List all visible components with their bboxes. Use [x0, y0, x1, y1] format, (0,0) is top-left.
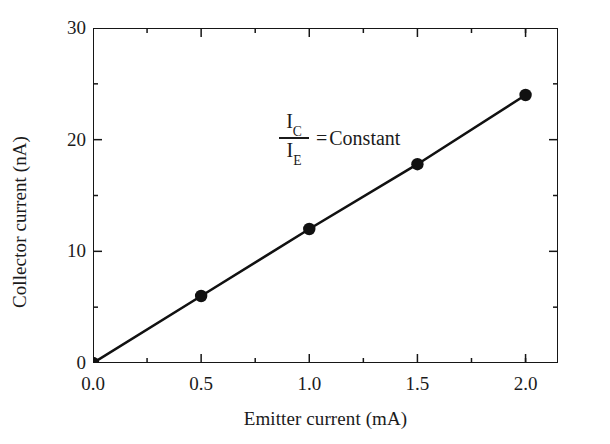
x-axis-title: Emitter current (mA): [93, 408, 558, 430]
plot-svg: [93, 28, 558, 363]
x-tick-label: 0.0: [63, 374, 123, 393]
fraction: IC IE: [279, 111, 309, 165]
x-tick-label: 1.0: [279, 374, 339, 393]
axis-ticks: [93, 28, 558, 363]
x-axis-tick-labels: 0.00.51.01.52.0: [0, 374, 610, 400]
x-tick-label: 0.5: [171, 374, 231, 393]
fraction-denominator: IE: [283, 139, 306, 165]
x-tick-label: 2.0: [496, 374, 556, 393]
constant-label: Constant: [329, 127, 400, 150]
plot-area: IC IE = Constant: [93, 28, 558, 363]
x-tick-label: 1.5: [387, 374, 447, 393]
data-point: [303, 223, 315, 235]
data-point: [93, 357, 99, 363]
numerator-subscript: C: [293, 124, 302, 139]
denominator-subscript: E: [293, 153, 301, 168]
equals-sign: =: [316, 127, 327, 150]
chart-figure: Collector current (nA) 0102030 IC IE = C…: [0, 0, 610, 444]
fraction-numerator: IC: [282, 111, 306, 137]
data-point: [519, 89, 531, 101]
y-tick-label: 20: [38, 130, 86, 149]
y-tick-label: 0: [38, 353, 86, 372]
formula-annotation: IC IE = Constant: [279, 111, 400, 165]
y-tick-label: 30: [38, 18, 86, 37]
y-tick-label: 10: [38, 241, 86, 260]
data-point: [411, 158, 423, 170]
numerator-symbol: I: [286, 110, 293, 132]
data-point: [195, 290, 207, 302]
